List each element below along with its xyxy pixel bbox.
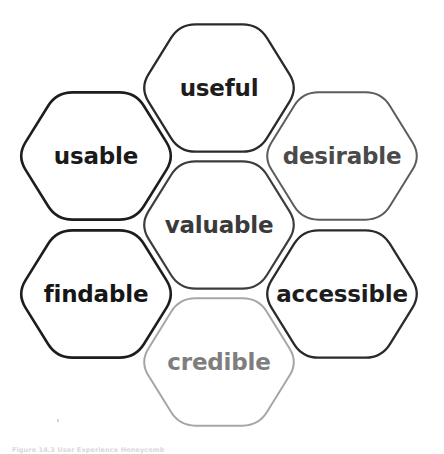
ux-honeycomb-diagram: usable useful desirable valuable findabl…	[0, 0, 444, 454]
hex-label-usable: usable	[54, 145, 138, 168]
hex-label-findable: findable	[44, 283, 149, 306]
figure-caption: Figure 14.3 User Experience Honeycomb	[12, 446, 164, 454]
hex-label-valuable: valuable	[165, 214, 274, 237]
scan-artifact-speck	[57, 419, 59, 422]
hex-label-accessible: accessible	[276, 283, 408, 306]
hex-label-useful: useful	[180, 77, 259, 100]
hex-label-credible: credible	[167, 351, 270, 374]
hex-label-desirable: desirable	[283, 145, 402, 168]
